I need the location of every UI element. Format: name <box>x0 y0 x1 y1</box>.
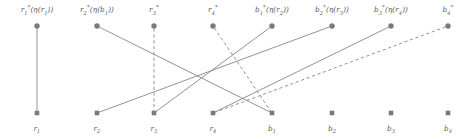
label-r1: r1 <box>34 124 41 134</box>
label-b4: b4 <box>444 124 452 134</box>
label-r1s: r1*(η(r1)) <box>21 4 54 16</box>
edge-b2s-to-r2 <box>99 27 329 112</box>
node-b4[interactable] <box>446 111 451 116</box>
label-b3s: b3*(η(r4)) <box>374 4 408 16</box>
edge-r2s-to-b1 <box>99 27 270 112</box>
node-r1[interactable] <box>35 111 40 116</box>
label-r4s: r4* <box>208 4 218 16</box>
node-b2s[interactable] <box>329 23 334 28</box>
node-r2s[interactable] <box>94 23 99 28</box>
node-b1[interactable] <box>270 111 275 116</box>
label-b1: b1 <box>268 124 276 134</box>
label-b2s: b2*(η(r3)) <box>315 4 349 16</box>
node-b4s[interactable] <box>445 23 450 28</box>
node-r1s[interactable] <box>34 23 39 28</box>
label-r2s: r2*(η(b1)) <box>80 4 114 16</box>
edge-b3s-to-r4 <box>215 27 389 112</box>
graph-canvas <box>0 0 471 139</box>
node-r3s[interactable] <box>151 23 156 28</box>
node-r3[interactable] <box>152 111 157 116</box>
label-r3s: r3* <box>149 4 159 16</box>
edge-b1s-to-r3 <box>156 28 270 112</box>
node-r2[interactable] <box>95 111 100 116</box>
node-r4s[interactable] <box>210 23 215 28</box>
label-r4: r4 <box>210 124 217 134</box>
node-layer <box>34 23 450 115</box>
node-b3s[interactable] <box>388 23 393 28</box>
node-b2[interactable] <box>330 111 335 116</box>
label-b4s: b4* <box>443 4 454 16</box>
label-r3: r3 <box>151 124 158 134</box>
label-b1s: b1*(η(r2)) <box>255 4 289 16</box>
label-b3: b3 <box>387 124 395 134</box>
node-b3[interactable] <box>389 111 394 116</box>
edge-layer <box>37 27 446 112</box>
label-r2: r2 <box>94 124 101 134</box>
label-b2: b2 <box>328 124 336 134</box>
bipartite-graph-figure: r1*(η(r1))r2*(η(b1))r3*r4*b1*(η(r2))b2*(… <box>0 0 471 139</box>
node-b1s[interactable] <box>269 23 274 28</box>
node-r4[interactable] <box>211 111 216 116</box>
edge-b4s-to-r4 <box>215 27 445 112</box>
